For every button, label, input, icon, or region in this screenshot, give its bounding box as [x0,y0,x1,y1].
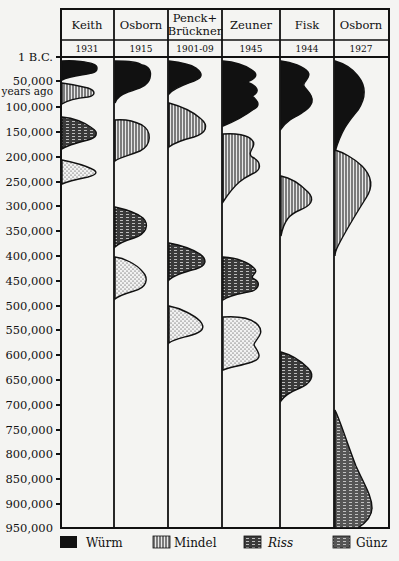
header-keith: Keith [72,18,103,32]
column-fisk-1944 [281,61,312,401]
y-label-years-ago: years ago [1,85,53,97]
year-fisk: 1944 [296,44,319,54]
y-label-900000: 900,000 [5,497,53,511]
legend-label-mindel: Mindel [174,536,217,550]
column-penck-bruckner [169,61,206,343]
y-label-800000: 800,000 [5,447,53,461]
legend: Würm Mindel Riss Günz [60,536,387,550]
year-osborn-1927: 1927 [350,44,373,54]
osborn1915-wurm [115,61,151,103]
header-penck-2: Brückner [168,24,223,38]
legend-label-wurm: Würm [86,536,123,550]
legend-label-gunz: Günz [356,536,387,550]
penck-riss [169,243,205,280]
zeuner-riss [223,257,258,300]
penck-wurm [169,61,201,94]
legend-label-riss: Riss [267,536,293,550]
legend-swatch-mindel [153,536,170,548]
zeuner-wurm [223,61,258,126]
osborn1927-mindel [335,150,371,256]
y-label-150000: 150,000 [5,125,53,139]
column-osborn-1915 [115,61,151,299]
y-label-750000: 750,000 [5,423,53,437]
header-osborn-1927: Osborn [340,18,383,32]
y-label-0: 1 B.C. [18,50,53,64]
y-label-350000: 350,000 [5,224,53,238]
zeuner-gunz [223,317,261,370]
penck-mindel [169,103,206,147]
column-zeuner-1945 [223,61,261,370]
y-label-700000: 700,000 [5,398,53,412]
osborn1915-gunz [115,257,146,299]
legend-swatch-gunz [333,536,350,548]
y-axis: 1 B.C. 50,000 years ago 100,000 150,000 … [1,50,61,535]
legend-swatch-riss [244,536,261,548]
fisk-wurm [281,61,312,129]
year-penck: 1901-09 [176,44,214,54]
year-zeuner: 1945 [240,44,263,54]
y-label-200000: 200,000 [5,150,53,164]
osborn1915-mindel [115,120,149,161]
y-label-400000: 400,000 [5,249,53,263]
fisk-riss [281,352,312,401]
keith-mindel [62,83,94,104]
y-label-550000: 550,000 [5,323,53,337]
year-osborn-1915: 1915 [130,44,153,54]
column-osborn-1927 [335,61,372,528]
keith-gunz [62,160,96,184]
header-penck-1: Penck+ [173,11,217,25]
y-label-600000: 600,000 [5,348,53,362]
glaciation-chart: Keith Osborn Penck+ Brückner Zeuner Fisk… [0,0,399,561]
column-keith-1931 [62,61,97,184]
penck-gunz [169,306,203,343]
osborn1915-riss [115,207,146,247]
y-label-450000: 450,000 [5,274,53,288]
y-label-850000: 850,000 [5,472,53,486]
y-label-950000: 950,000 [5,521,53,535]
keith-wurm [62,61,97,80]
header-fisk: Fisk [295,18,321,32]
y-label-500000: 500,000 [5,299,53,313]
y-label-650000: 650,000 [5,373,53,387]
osborn1927-wurm [335,61,364,152]
y-label-250000: 250,000 [5,175,53,189]
keith-riss [62,117,96,149]
y-label-100000: 100,000 [5,100,53,114]
header-osborn-1915: Osborn [120,18,163,32]
zeuner-mindel [223,134,260,202]
header-zeuner: Zeuner [230,18,272,32]
fisk-mindel [281,176,312,236]
y-label-300000: 300,000 [5,199,53,213]
year-keith: 1931 [76,44,99,54]
legend-swatch-wurm [60,536,77,548]
osborn1927-gunz [335,410,372,528]
column-headers: Keith Osborn Penck+ Brückner Zeuner Fisk… [72,11,383,54]
